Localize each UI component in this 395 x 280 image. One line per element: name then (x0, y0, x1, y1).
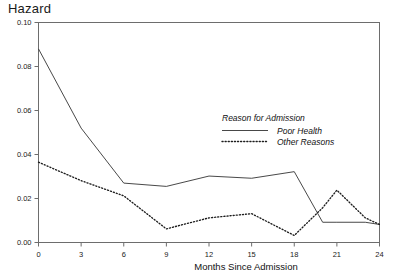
x-tick-label: 9 (164, 250, 168, 259)
y-tick-label: 0.04 (17, 150, 32, 159)
y-tick-label: 0.10 (17, 18, 32, 27)
plot-frame (39, 23, 380, 243)
x-tick-label: 12 (205, 250, 213, 259)
series-line-other-reasons (39, 162, 380, 235)
y-tick-label: 0.06 (17, 106, 32, 115)
x-axis-tick-group: 03691215182124 (36, 243, 383, 259)
chart-page: Hazard 0.000.020.040.060.080.10 03691215… (0, 0, 395, 280)
x-tick-label: 6 (122, 250, 126, 259)
legend-label-poor-health: Poor Health (277, 126, 322, 136)
y-axis-tick-group: 0.000.020.040.060.080.10 (17, 18, 39, 247)
legend-title: Reason for Admission (222, 113, 305, 123)
hazard-line-chart: 0.000.020.040.060.080.10 03691215182124 … (0, 0, 395, 280)
x-tick-label: 3 (79, 250, 83, 259)
chart-legend: Reason for Admission Poor Health Other R… (222, 113, 335, 147)
legend-label-other-reasons: Other Reasons (277, 137, 335, 147)
x-tick-label: 24 (375, 250, 383, 259)
x-axis-title: Months Since Admission (194, 261, 298, 272)
x-tick-label: 21 (333, 250, 341, 259)
x-tick-label: 18 (290, 250, 298, 259)
y-tick-label: 0.02 (17, 194, 32, 203)
y-tick-label: 0.00 (17, 238, 32, 247)
x-tick-label: 0 (36, 250, 40, 259)
x-tick-label: 15 (247, 250, 255, 259)
y-tick-label: 0.08 (17, 62, 32, 71)
